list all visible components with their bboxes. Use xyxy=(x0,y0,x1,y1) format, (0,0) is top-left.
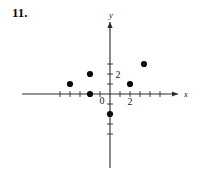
data-point xyxy=(87,71,93,77)
x-axis-name-label: x xyxy=(183,89,188,99)
data-point xyxy=(67,81,73,87)
data-point xyxy=(107,111,113,117)
data-points-layer xyxy=(67,61,147,117)
y-axis-arrowhead xyxy=(107,22,112,28)
data-point xyxy=(87,91,93,97)
figure-container: 11. 022xy xyxy=(0,0,210,174)
scatter-plot: 022xy xyxy=(0,0,210,174)
tick-labels-layer: 022xy xyxy=(100,10,189,107)
x-axis-arrowhead xyxy=(172,91,178,96)
data-point xyxy=(141,61,147,67)
y-axis-name-label: y xyxy=(108,10,113,20)
y-axis-tick-label: 2 xyxy=(116,69,121,80)
origin-tick-label: 0 xyxy=(100,95,105,106)
data-point xyxy=(127,81,133,87)
x-axis-tick-label: 2 xyxy=(128,96,133,107)
